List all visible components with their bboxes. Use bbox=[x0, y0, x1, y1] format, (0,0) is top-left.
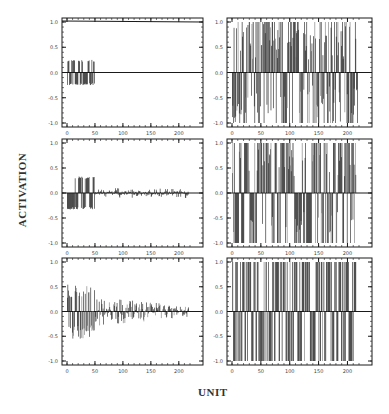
panel-middle-right: 1.00.50.0-0.5-1.0050100150200 bbox=[213, 139, 372, 256]
y-tick-label: 0.0 bbox=[215, 70, 223, 76]
x-tick-label: 200 bbox=[343, 368, 353, 374]
y-tick-label: 1.0 bbox=[50, 140, 58, 146]
panel-bottom-left: 1.00.50.0-0.5-1.0050100150200 bbox=[48, 258, 203, 374]
y-tick-label: 0.0 bbox=[50, 190, 58, 196]
y-tick-label: 0.0 bbox=[215, 309, 223, 315]
panel-bottom-right: 1.00.50.0-0.5-1.0050100150200 bbox=[213, 258, 372, 374]
y-tick-label: -0.5 bbox=[213, 215, 223, 221]
y-tick-label: -0.5 bbox=[213, 333, 223, 339]
y-axis-label-text: ACTIVATION bbox=[16, 153, 28, 227]
x-tick-label: 150 bbox=[146, 250, 156, 256]
y-tick-label: 1.0 bbox=[215, 259, 223, 265]
x-tick-label: 200 bbox=[343, 250, 353, 256]
y-tick-label: -0.5 bbox=[48, 95, 58, 101]
panel-top-left: 1.00.50.0-0.5-1.0050100150200 bbox=[48, 18, 203, 136]
y-tick-label: -1.0 bbox=[48, 358, 58, 364]
x-tick-label: 150 bbox=[314, 130, 324, 136]
y-tick-label: 1.0 bbox=[215, 140, 223, 146]
y-tick-label: 0.5 bbox=[215, 284, 223, 290]
y-tick-label: 1.0 bbox=[50, 259, 58, 265]
y-tick-label: 0.0 bbox=[50, 70, 58, 76]
y-tick-label: 0.5 bbox=[50, 44, 58, 50]
x-tick-label: 50 bbox=[92, 250, 98, 256]
x-tick-label: 0 bbox=[65, 250, 68, 256]
x-tick-label: 200 bbox=[174, 250, 184, 256]
x-tick-label: 150 bbox=[146, 130, 156, 136]
x-tick-label: 50 bbox=[258, 130, 264, 136]
y-tick-label: 0.5 bbox=[215, 44, 223, 50]
x-tick-label: 100 bbox=[118, 368, 128, 374]
x-tick-label: 50 bbox=[92, 368, 98, 374]
y-tick-label: 0.5 bbox=[50, 284, 58, 290]
x-tick-label: 100 bbox=[118, 250, 128, 256]
y-tick-label: 0.5 bbox=[50, 165, 58, 171]
y-tick-label: 0.0 bbox=[50, 309, 58, 315]
x-tick-label: 50 bbox=[258, 368, 264, 374]
y-tick-label: 0.0 bbox=[215, 190, 223, 196]
x-tick-label: 150 bbox=[146, 368, 156, 374]
figure-canvas: 1.00.50.0-0.5-1.00501001502001.00.50.0-0… bbox=[0, 0, 389, 414]
x-tick-label: 0 bbox=[230, 250, 233, 256]
x-tick-label: 200 bbox=[174, 130, 184, 136]
x-tick-label: 0 bbox=[65, 368, 68, 374]
x-axis-label: UNIT bbox=[198, 386, 228, 398]
x-tick-label: 150 bbox=[314, 250, 324, 256]
x-tick-label: 100 bbox=[285, 368, 295, 374]
x-tick-label: 100 bbox=[285, 130, 295, 136]
y-tick-label: -0.5 bbox=[213, 95, 223, 101]
x-tick-label: 150 bbox=[314, 368, 324, 374]
y-tick-label: -0.5 bbox=[48, 333, 58, 339]
y-tick-label: -1.0 bbox=[48, 240, 58, 246]
bars bbox=[232, 143, 356, 243]
x-tick-label: 0 bbox=[65, 130, 68, 136]
y-tick-label: -0.5 bbox=[48, 215, 58, 221]
bars bbox=[232, 22, 358, 123]
y-tick-label: -1.0 bbox=[213, 120, 223, 126]
x-tick-label: 50 bbox=[258, 250, 264, 256]
y-axis-label: ACTIVATION bbox=[14, 150, 30, 230]
bars bbox=[232, 262, 356, 361]
y-tick-label: -1.0 bbox=[213, 240, 223, 246]
x-tick-label: 200 bbox=[174, 368, 184, 374]
x-tick-label: 100 bbox=[285, 250, 295, 256]
x-tick-label: 100 bbox=[118, 130, 128, 136]
x-tick-label: 50 bbox=[92, 130, 98, 136]
y-tick-label: 0.5 bbox=[215, 165, 223, 171]
y-tick-label: 1.0 bbox=[215, 19, 223, 25]
x-tick-label: 0 bbox=[230, 368, 233, 374]
x-tick-label: 200 bbox=[343, 130, 353, 136]
y-tick-label: -1.0 bbox=[48, 120, 58, 126]
y-tick-label: -1.0 bbox=[213, 358, 223, 364]
panel-top-right: 1.00.50.0-0.5-1.0050100150200 bbox=[213, 18, 372, 136]
y-tick-label: 1.0 bbox=[50, 19, 58, 25]
panel-middle-left: 1.00.50.0-0.5-1.0050100150200 bbox=[48, 139, 203, 256]
x-tick-label: 0 bbox=[230, 130, 233, 136]
